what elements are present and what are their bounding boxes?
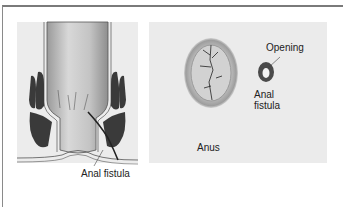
label-anal-fistula-right-1: Anal <box>254 89 274 100</box>
anus-drawing <box>184 38 238 108</box>
label-anal-fistula-left: Anal fistula <box>81 168 130 179</box>
label-anal-fistula-right-2: fistula <box>254 100 280 111</box>
label-opening: Opening <box>266 42 304 53</box>
rectum-drawing <box>17 22 138 166</box>
label-anus: Anus <box>197 142 220 153</box>
fistula-opening-drawing <box>258 57 280 82</box>
